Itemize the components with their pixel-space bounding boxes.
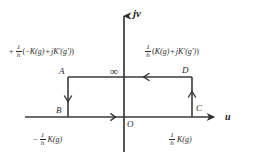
infinity-marker: ∞	[110, 66, 118, 77]
expr-arg-g: (g)	[182, 136, 191, 144]
vertex-label-d: D	[182, 66, 189, 75]
bottom-left-expression: − 1 h K (g)	[33, 132, 62, 148]
expr-arg-g: (g)	[160, 48, 169, 56]
fraction-one-over-h: 1 h	[145, 44, 151, 60]
expr-lead-sign: −	[33, 136, 38, 144]
expr-close-paren: )	[196, 48, 199, 56]
fraction-numerator: 1	[145, 44, 151, 51]
contour-diagram-figure: jv u ∞ A B C D O + 1 h ( − K (g) + j K′ …	[0, 0, 259, 157]
horizontal-axis-label: u	[225, 112, 231, 122]
expr-plus: +	[45, 48, 50, 56]
expr-arg-g-prime: (g′)	[185, 48, 196, 56]
expr-close-paren: )	[71, 48, 74, 56]
fraction-numerator: 1	[16, 44, 22, 51]
fraction-one-over-h: 1 h	[169, 132, 175, 148]
top-right-expression: 1 h ( K (g) + j K′ (g′) )	[144, 44, 199, 60]
vertex-label-a: A	[59, 67, 65, 76]
fraction-denominator: h	[145, 52, 151, 59]
fraction-numerator: 1	[40, 132, 46, 139]
expr-plus: +	[170, 48, 175, 56]
expr-arg-g: (g)	[53, 136, 62, 144]
fraction-one-over-h: 1 h	[16, 44, 22, 60]
contour-rectangle	[68, 77, 192, 117]
expr-k-prime: K′	[178, 48, 185, 56]
origin-label: O	[127, 120, 134, 129]
bottom-right-expression: 1 h K (g)	[168, 132, 192, 148]
top-left-expression: + 1 h ( − K (g) + j K′ (g′) )	[9, 44, 74, 60]
fraction-numerator: 1	[169, 132, 175, 139]
expr-k-prime: K′	[53, 48, 60, 56]
fraction-denominator: h	[16, 52, 22, 59]
vertex-label-c: C	[196, 104, 202, 113]
fraction-denominator: h	[40, 140, 46, 147]
expr-arg-g: (g)	[35, 48, 44, 56]
fraction-one-over-h: 1 h	[40, 132, 46, 148]
vertical-axis-label: jv	[133, 8, 141, 19]
expr-lead-sign: +	[9, 48, 14, 56]
expr-arg-g-prime: (g′)	[60, 48, 71, 56]
vertex-label-b: B	[56, 106, 62, 115]
fraction-denominator: h	[169, 140, 175, 147]
